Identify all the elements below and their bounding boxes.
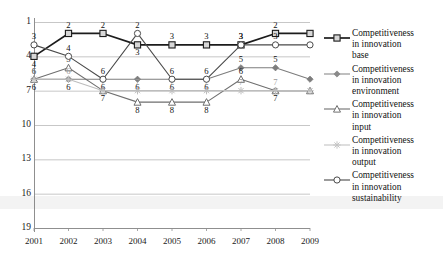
legend-label: Competitivenessin innovationoutput xyxy=(352,135,414,169)
legend-label: Competitivenessin innovationinput xyxy=(352,99,414,133)
x-axis-tick-label: 2008 xyxy=(267,237,285,246)
data-point-marker xyxy=(334,177,340,183)
legend-label-line: environment xyxy=(352,86,414,97)
chart-legend: Competitivenessin innovationbaseCompetit… xyxy=(322,28,443,206)
triangle-marker-icon xyxy=(322,101,352,113)
x-axis-tick-label: 2007 xyxy=(232,237,250,246)
legend-label-line: Competitiveness xyxy=(352,99,414,110)
star-marker-icon xyxy=(322,137,352,149)
legend-item-5[interactable]: Competitivenessin innovationsustainabili… xyxy=(322,170,443,204)
data-point-marker xyxy=(333,141,340,148)
data-point-marker xyxy=(334,71,340,77)
x-axis-tick-label: 2005 xyxy=(163,237,181,246)
chart-root: 4223333226666665566578886776677777773462… xyxy=(0,0,443,254)
legend-item-1[interactable]: Competitivenessin innovationbase xyxy=(322,28,443,62)
data-point-marker xyxy=(334,35,340,41)
legend-label-line: in innovation xyxy=(352,182,414,193)
legend-label: Competitivenessin innovationbase xyxy=(352,28,414,62)
legend-label-line: Competitiveness xyxy=(352,64,414,75)
legend-label-line: in innovation xyxy=(352,75,414,86)
x-axis-tick-label: 2006 xyxy=(198,237,216,246)
legend-label-line: Competitiveness xyxy=(352,28,414,39)
legend-label: Competitivenessin innovationsustainabili… xyxy=(352,170,414,204)
legend-label-line: in innovation xyxy=(352,146,414,157)
legend-label-line: Competitiveness xyxy=(352,135,414,146)
circle-marker-icon xyxy=(322,172,352,184)
chart-plot-area: 4223333226666665566578886776677777773462… xyxy=(0,0,315,254)
square-marker-icon xyxy=(322,30,352,42)
legend-label: Competitivenessin innovationenvironment xyxy=(352,64,414,98)
legend-label-line: Competitiveness xyxy=(352,170,414,181)
legend-item-2[interactable]: Competitivenessin innovationenvironment xyxy=(322,64,443,98)
x-axis-tick-label: 2002 xyxy=(60,237,78,246)
legend-label-line: output xyxy=(352,157,414,168)
x-axis: 200120022003200420052006200720082009 xyxy=(0,0,315,254)
legend-label-line: sustainability xyxy=(352,193,414,204)
legend-item-4[interactable]: Competitivenessin innovationoutput xyxy=(322,135,443,169)
x-axis-tick-label: 2001 xyxy=(25,237,43,246)
legend-label-line: in innovation xyxy=(352,110,414,121)
diamond-marker-icon xyxy=(322,66,352,78)
x-axis-tick-label: 2004 xyxy=(129,237,147,246)
x-axis-tick-label: 2003 xyxy=(94,237,112,246)
legend-label-line: in innovation xyxy=(352,39,414,50)
legend-label-line: input xyxy=(352,122,414,133)
legend-label-line: base xyxy=(352,50,414,61)
legend-item-3[interactable]: Competitivenessin innovationinput xyxy=(322,99,443,133)
x-axis-tick-label: 2009 xyxy=(301,237,319,246)
